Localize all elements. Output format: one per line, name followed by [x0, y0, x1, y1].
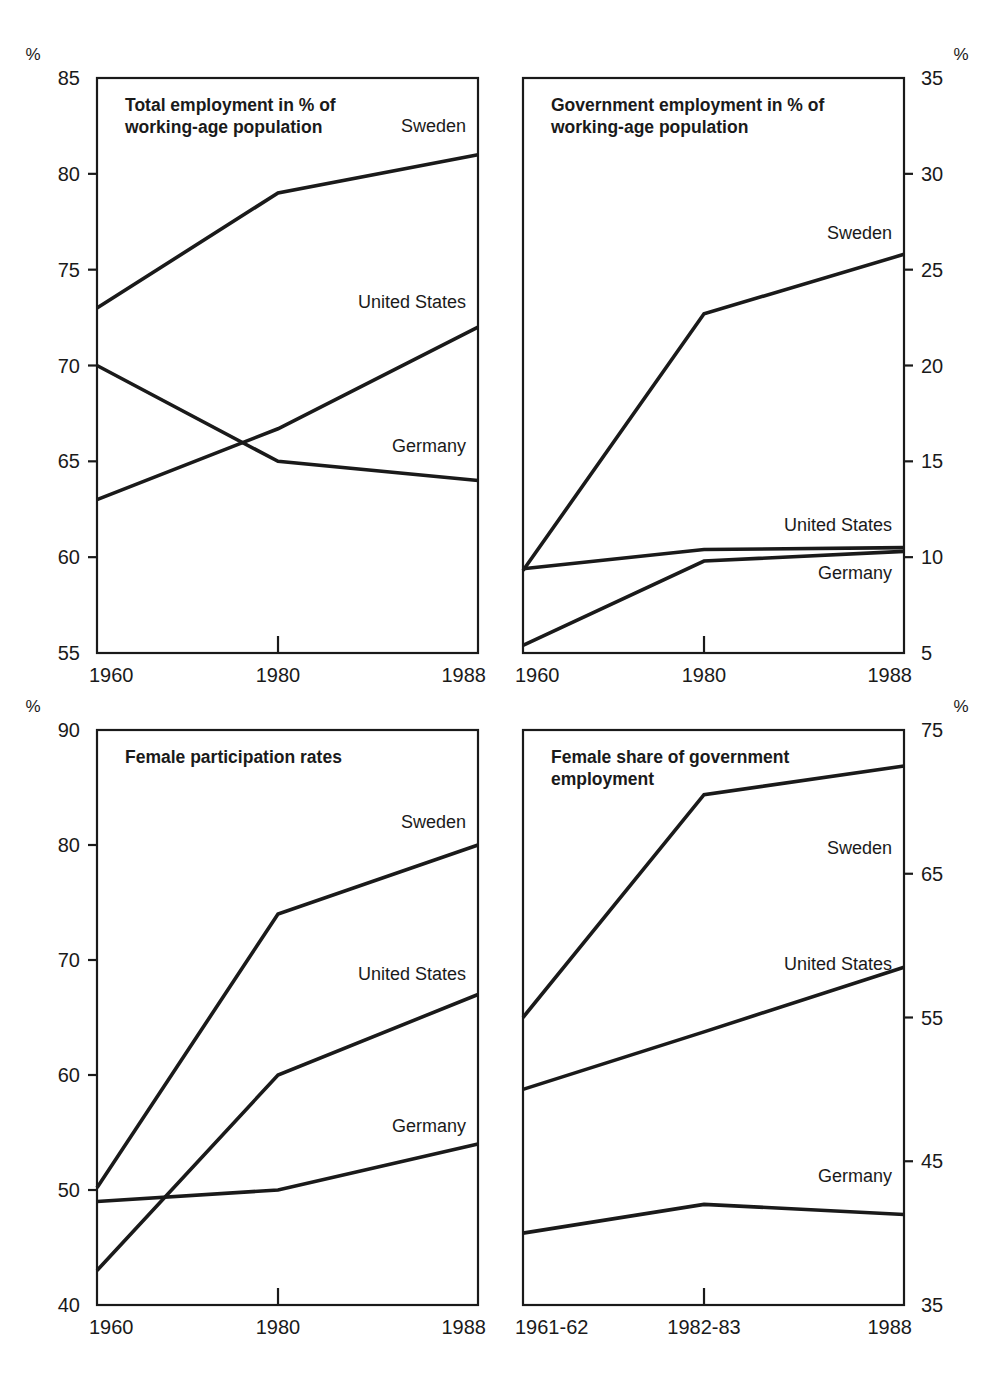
series-label-united-states: United States — [784, 954, 892, 974]
series-line-germany — [523, 1204, 904, 1233]
y-axis-tick-label: 35 — [921, 1294, 943, 1316]
y-axis-tick-label: 75 — [921, 719, 943, 741]
series-line-sweden — [523, 766, 904, 1018]
series-label-sweden: Sweden — [827, 838, 892, 858]
panel-title-line: Female share of government — [551, 747, 789, 767]
y-axis-tick-label: 65 — [921, 863, 943, 885]
x-axis-tick-label: 1988 — [868, 1316, 913, 1338]
y-axis-tick-label: 55 — [921, 1007, 943, 1029]
x-axis-tick-label: 1961-62 — [515, 1316, 588, 1338]
chart-panel-female-share-government: %35455565751961-621982-831988Female shar… — [0, 0, 999, 1383]
x-axis-tick-label: 1982-83 — [667, 1316, 740, 1338]
y-axis-tick-label: 45 — [921, 1150, 943, 1172]
series-line-united-states — [523, 967, 904, 1089]
plot-frame — [523, 730, 904, 1305]
y-axis-unit-label: % — [953, 697, 968, 716]
series-label-germany: Germany — [818, 1166, 892, 1186]
panel-title-line: employment — [551, 769, 654, 789]
